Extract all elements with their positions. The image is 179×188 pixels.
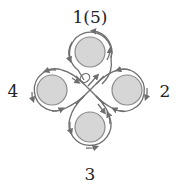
rotor-3 [75, 112, 105, 142]
rotor-4 [37, 75, 67, 105]
label-rotor-1: 1(5) [73, 7, 108, 27]
label-rotor-2: 2 [160, 81, 171, 101]
label-rotor-4: 4 [8, 81, 19, 101]
rotor-1 [75, 37, 105, 67]
rotor-flow-diagram: 1(5) 2 3 4 [0, 0, 179, 188]
rotor-2 [112, 75, 142, 105]
label-rotor-3: 3 [85, 164, 96, 184]
